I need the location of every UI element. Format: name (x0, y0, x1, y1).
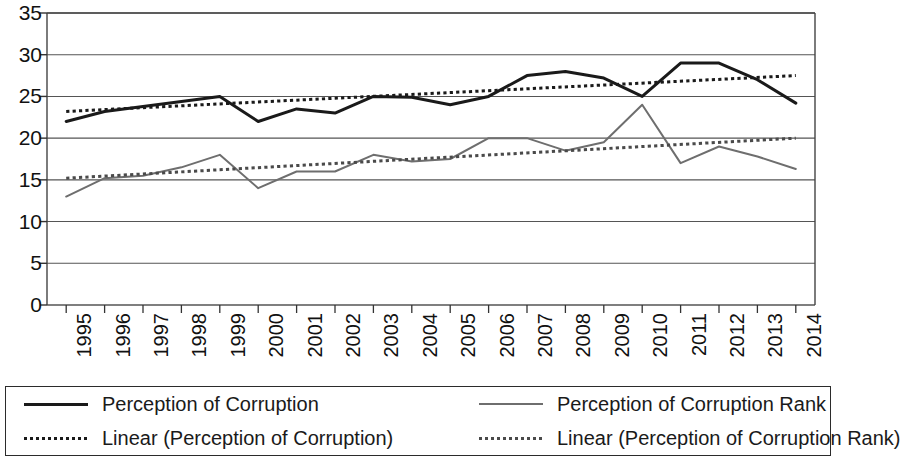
x-tick-label: 2002 (343, 313, 363, 358)
legend-item-perception-of-corruption-rank: Perception of Corruption Rank (479, 394, 901, 414)
x-tick-label: 2004 (420, 313, 440, 358)
y-tick-label: 30 (6, 44, 42, 65)
chart-legend: Perception of Corruption Perception of C… (5, 386, 831, 456)
x-tick-label: 1995 (74, 313, 94, 358)
x-tick-label: 2010 (650, 313, 670, 358)
legend-label-linear-perception-of-corruption: Linear (Perception of Corruption) (102, 428, 393, 448)
legend-swatch-solid-dark-icon (24, 397, 88, 411)
x-tick-label: 1997 (151, 313, 171, 358)
legend-label-perception-of-corruption-rank: Perception of Corruption Rank (557, 394, 826, 414)
x-tick-label: 2013 (765, 313, 785, 358)
x-tick-label: 2011 (689, 313, 709, 356)
x-tick-label: 2009 (612, 313, 632, 358)
x-tick-label: 2000 (266, 313, 286, 358)
legend-item-perception-of-corruption: Perception of Corruption (24, 394, 479, 414)
x-tick-label: 2008 (573, 313, 593, 358)
x-tick-label: 2014 (804, 313, 824, 358)
legend-label-perception-of-corruption: Perception of Corruption (102, 394, 319, 414)
x-tick-label: 2001 (305, 313, 325, 358)
legend-item-linear-perception-of-corruption-rank: Linear (Perception of Corruption Rank) (479, 428, 901, 448)
x-tick-label: 2012 (727, 313, 747, 358)
y-tick-label: 35 (6, 2, 42, 23)
legend-swatch-dotted-gray-icon (479, 431, 543, 445)
trendline-series-3 (66, 138, 796, 178)
legend-item-linear-perception-of-corruption: Linear (Perception of Corruption) (24, 428, 479, 448)
x-tick-label: 2005 (458, 313, 478, 358)
x-tick-label: 2003 (381, 313, 401, 358)
x-tick-label: 2007 (535, 313, 555, 358)
legend-label-linear-perception-of-corruption-rank: Linear (Perception of Corruption Rank) (557, 428, 901, 448)
legend-swatch-solid-gray-icon (479, 397, 543, 411)
y-tick-label: 10 (6, 211, 42, 232)
legend-swatch-dotted-dark-icon (24, 431, 88, 445)
plot-area: 35302520151050 1995199619971998199920002… (0, 0, 837, 380)
y-tick-label: 25 (6, 85, 42, 106)
x-tick-label: 1996 (113, 313, 133, 358)
y-tick-label: 20 (6, 127, 42, 148)
y-tick-label: 15 (6, 169, 42, 190)
y-axis: 35302520151050 (0, 0, 42, 320)
data-line-series-1 (66, 105, 796, 197)
x-tick-label: 1998 (189, 313, 209, 358)
x-tick-label: 2006 (497, 313, 517, 358)
x-tick-label: 1999 (228, 313, 248, 358)
trendline-series-2 (66, 76, 796, 112)
y-tick-label: 5 (6, 252, 42, 273)
x-axis: 1995199619971998199920002001200220032004… (0, 309, 837, 379)
